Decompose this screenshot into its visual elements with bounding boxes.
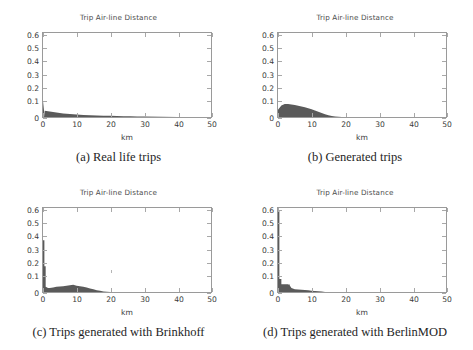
xlabel-30-b: 30 <box>375 120 385 129</box>
ylabel-0.6-c: 0.6 <box>27 205 39 214</box>
ylabel-0-a: 0 <box>34 114 39 123</box>
stray-artifact-mark-c <box>111 270 112 273</box>
x-axis-name-c: km <box>42 308 212 317</box>
xlabel-50-c: 50 <box>207 295 217 304</box>
ylabel-0.2-d: 0.2 <box>262 258 274 267</box>
xlabel-50-b: 50 <box>442 120 452 129</box>
xlabel-20-c: 20 <box>106 295 116 304</box>
xtick-50-d <box>447 288 448 292</box>
x-axis-name-a: km <box>42 133 212 142</box>
ylabel-0.5-a: 0.5 <box>27 44 39 53</box>
plot-title-a: Trip Air-line Distance <box>0 13 237 22</box>
xlabel-10-b: 10 <box>307 120 317 129</box>
ytick-0-right-b <box>442 118 446 119</box>
xlabel-0-c: 0 <box>41 295 46 304</box>
xlabel-30-d: 30 <box>375 295 385 304</box>
xlabel-0-a: 0 <box>41 120 46 129</box>
plot-area-b <box>277 32 447 118</box>
x-axis-name-b: km <box>277 133 447 142</box>
ylabel-0.3-c: 0.3 <box>27 245 39 254</box>
xlabel-30-a: 30 <box>140 120 150 129</box>
histogram-curve-c <box>43 208 211 292</box>
ytick-0-a <box>43 118 47 119</box>
ylabel-0.3-a: 0.3 <box>27 70 39 79</box>
xlabel-50-a: 50 <box>207 120 217 129</box>
xlabel-30-c: 30 <box>140 295 150 304</box>
plot-area-c <box>42 207 212 293</box>
plot-title-c: Trip Air-line Distance <box>0 188 237 197</box>
ylabel-0.4-c: 0.4 <box>27 232 39 241</box>
ylabel-0.6-d: 0.6 <box>262 205 274 214</box>
histogram-curve-d <box>278 208 446 292</box>
xtick-50-top-a <box>212 33 213 37</box>
ylabel-0.4-b: 0.4 <box>262 57 274 66</box>
ylabel-0.2-b: 0.2 <box>262 83 274 92</box>
panel-c: Trip Air-line Distance 0.6 0.5 0.4 <box>0 175 237 350</box>
ylabel-0.6-a: 0.6 <box>27 30 39 39</box>
xtick-50-top-c <box>212 208 213 212</box>
ylabel-0.1-c: 0.1 <box>27 272 39 281</box>
plot-title-b: Trip Air-line Distance <box>237 13 473 22</box>
ylabel-0.5-b: 0.5 <box>262 44 274 53</box>
ytick-0-right-d <box>442 293 446 294</box>
xtick-50-a <box>212 113 213 117</box>
ylabel-0.1-d: 0.1 <box>262 272 274 281</box>
caption-a: (a) Real life trips <box>0 150 237 165</box>
plot-title-d: Trip Air-line Distance <box>237 188 473 197</box>
ylabel-0.5-c: 0.5 <box>27 219 39 228</box>
caption-c: (c) Trips generated with Brinkhoff <box>0 325 237 340</box>
ytick-0-right-c <box>207 293 211 294</box>
ylabel-0-b: 0 <box>269 114 274 123</box>
ylabel-0.1-a: 0.1 <box>27 97 39 106</box>
xlabel-40-a: 40 <box>174 120 184 129</box>
ylabel-0-d: 0 <box>269 289 274 298</box>
xlabel-0-b: 0 <box>276 120 281 129</box>
xtick-50-c <box>212 288 213 292</box>
ytick-0-b <box>278 118 282 119</box>
ytick-0-c <box>43 293 47 294</box>
figure-grid: Trip Air-line Distance 0.6 0.5 0.4 0.3 <box>0 0 473 350</box>
xlabel-10-d: 10 <box>307 295 317 304</box>
xlabel-50-d: 50 <box>442 295 452 304</box>
ytick-0-d <box>278 293 282 294</box>
ylabel-0.6-b: 0.6 <box>262 30 274 39</box>
xlabel-40-c: 40 <box>174 295 184 304</box>
ylabel-0.2-c: 0.2 <box>27 258 39 267</box>
xlabel-0-d: 0 <box>276 295 281 304</box>
xtick-50-top-b <box>447 33 448 37</box>
xlabel-20-a: 20 <box>106 120 116 129</box>
xlabel-10-a: 10 <box>72 120 82 129</box>
xlabel-20-d: 20 <box>341 295 351 304</box>
xlabel-40-d: 40 <box>409 295 419 304</box>
plot-area-d <box>277 207 447 293</box>
x-axis-name-d: km <box>277 308 447 317</box>
ylabel-0.5-d: 0.5 <box>262 219 274 228</box>
panel-a: Trip Air-line Distance 0.6 0.5 0.4 0.3 <box>0 0 237 175</box>
ylabel-0.3-b: 0.3 <box>262 70 274 79</box>
ylabel-0.4-d: 0.4 <box>262 232 274 241</box>
ylabel-0-c: 0 <box>34 289 39 298</box>
histogram-curve-b <box>278 33 446 117</box>
xtick-50-top-d <box>447 208 448 212</box>
ylabel-0.2-a: 0.2 <box>27 83 39 92</box>
ytick-0-right-a <box>207 118 211 119</box>
ylabel-0.4-a: 0.4 <box>27 57 39 66</box>
xlabel-40-b: 40 <box>409 120 419 129</box>
histogram-curve-a <box>43 33 211 117</box>
caption-d: (d) Trips generated with BerlinMOD <box>237 325 473 340</box>
panel-b: Trip Air-line Distance 0.6 0.5 0.4 0.3 <box>237 0 473 175</box>
xlabel-20-b: 20 <box>341 120 351 129</box>
plot-area-a <box>42 32 212 118</box>
xlabel-10-c: 10 <box>72 295 82 304</box>
xtick-50-b <box>447 113 448 117</box>
panel-d: Trip Air-line Distance 0.6 0.5 0.4 0.3 <box>237 175 473 350</box>
caption-b: (b) Generated trips <box>237 150 473 165</box>
ylabel-0.1-b: 0.1 <box>262 97 274 106</box>
ylabel-0.3-d: 0.3 <box>262 245 274 254</box>
